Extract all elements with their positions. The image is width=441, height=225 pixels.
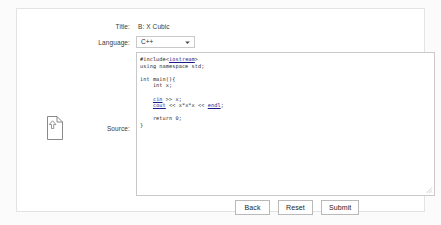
language-select[interactable]: C++ [136,36,195,48]
language-select-value: C++ [141,39,183,46]
submission-form-card: Title: B: X Cubic Language: C++ Source: … [16,8,425,212]
source-label: Source: [60,125,130,132]
title-value: B: X Cubic [138,23,170,30]
source-code-textarea[interactable]: #include<iostream> using namespace std; … [136,52,435,196]
chevron-down-icon [183,38,192,47]
language-label: Language: [60,39,130,46]
page-root: Title: B: X Cubic Language: C++ Source: … [0,0,441,225]
source-code-content: #include<iostream> using namespace std; … [137,53,434,129]
form-actions: Back Reset Submit [235,200,359,215]
title-label: Title: [60,23,130,30]
reset-button[interactable]: Reset [278,200,313,215]
resize-grip-icon[interactable] [424,185,433,194]
submit-button[interactable]: Submit [321,200,359,215]
back-button[interactable]: Back [235,200,270,215]
